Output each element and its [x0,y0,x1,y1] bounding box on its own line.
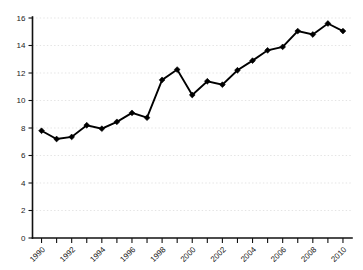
axes-group [33,17,353,238]
y-tick-label: 0 [21,234,26,243]
x-tick-label: 1994 [88,245,107,264]
x-tick-label: 1996 [118,245,137,264]
y-tick-label: 16 [17,14,26,23]
data-point-marker [144,115,150,121]
chart-canvas: 0246810121416 19901992199419961998200020… [0,0,363,270]
x-tick-label: 2002 [209,245,228,264]
y-tick-label: 10 [17,96,26,105]
y-tick-label: 6 [21,151,26,160]
gridlines-group [33,18,353,211]
y-tick-label: 14 [17,41,26,50]
y-tick-label: 2 [21,206,26,215]
x-tick-label: 2000 [179,245,198,264]
x-tick-label: 2006 [269,245,288,264]
data-markers-group [39,21,346,142]
line-chart: 0246810121416 19901992199419961998200020… [0,0,363,270]
data-point-marker [99,126,105,132]
y-tick-label: 12 [17,69,26,78]
series-line [42,24,343,140]
y-tick-label: 4 [21,179,26,188]
x-tick-label: 1990 [28,245,47,264]
x-tick-label: 1998 [149,245,168,264]
x-tick-label: 2004 [239,245,258,264]
x-tick-label: 1992 [58,245,77,264]
data-series-group [42,24,343,140]
x-tick-marks-group [42,238,343,243]
x-tick-label: 2010 [329,245,348,264]
x-tick-labels-group: 1990199219941996199820002002200420062008… [28,245,349,264]
y-tick-labels-group: 0246810121416 [17,14,26,243]
x-tick-label: 2008 [299,245,318,264]
y-tick-label: 8 [21,124,26,133]
